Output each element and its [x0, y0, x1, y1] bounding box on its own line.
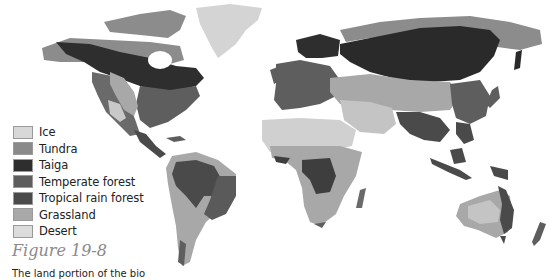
biome-legend: Ice Tundra Taiga Temperate forest Tropic… — [13, 124, 144, 240]
legend-item-taiga: Taiga — [13, 157, 144, 173]
desert-swatch — [13, 225, 33, 238]
figure-title: Figure 19-8 — [12, 241, 107, 260]
greenland-ice — [196, 4, 262, 58]
figure-caption: The land portion of the bio — [12, 268, 145, 279]
south-asia-rainforest — [396, 112, 450, 142]
legend-label: Desert — [39, 224, 77, 238]
ice-swatch — [13, 126, 33, 139]
temperate-forest-swatch — [13, 175, 33, 188]
legend-label: Temperate forest — [39, 175, 135, 189]
legend-item-temperate-forest: Temperate forest — [13, 174, 144, 190]
legend-label: Taiga — [39, 158, 68, 172]
arctic-islands-tundra — [104, 10, 186, 38]
legend-item-tundra: Tundra — [13, 141, 144, 157]
scandinavia-taiga — [296, 34, 340, 58]
grassland-swatch — [13, 208, 33, 221]
legend-label: Grassland — [39, 208, 96, 222]
tundra-swatch — [13, 142, 33, 155]
legend-label: Ice — [39, 125, 56, 139]
legend-item-desert: Desert — [13, 223, 144, 239]
legend-label: Tundra — [39, 142, 77, 156]
tropical-rain-forest-swatch — [13, 192, 33, 205]
legend-item-ice: Ice — [13, 124, 144, 140]
asia-temperate — [450, 80, 490, 124]
north-america-temperate — [136, 86, 200, 128]
legend-label: Tropical rain forest — [39, 191, 144, 205]
legend-item-tropical-rain-forest: Tropical rain forest — [13, 190, 144, 206]
taiga-swatch — [13, 159, 33, 172]
legend-item-grassland: Grassland — [13, 207, 144, 223]
